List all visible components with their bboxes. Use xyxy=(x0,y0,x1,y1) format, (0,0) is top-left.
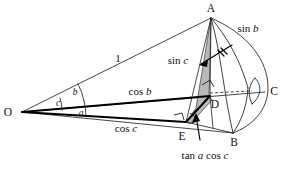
tan-cos-mid: cos xyxy=(203,149,223,161)
angle-label-a: a xyxy=(79,108,84,118)
vertex-label-E: E xyxy=(178,130,185,142)
cos-b-prefix: cos xyxy=(129,85,146,97)
cos-b-italic: b xyxy=(146,85,152,97)
vertex-label-B: B xyxy=(230,136,238,148)
vertex-label-D: D xyxy=(211,98,219,110)
spherical-trigonometry-figure: O A B C D E b c a 1 sin c sin b cos b co… xyxy=(0,0,291,169)
cos-c-italic: c xyxy=(132,122,137,134)
arc-C-lens-left xyxy=(249,78,255,104)
vertex-label-C: C xyxy=(270,85,278,97)
angle-arc-a xyxy=(84,101,86,116)
diagram-canvas: O A B C D E b c a 1 sin c sin b cos b co… xyxy=(0,0,291,169)
edge-label-tan-a-cos-c: tan a cos c xyxy=(182,149,229,161)
angle-label-b: b xyxy=(73,87,78,97)
vertex-label-O: O xyxy=(4,106,12,118)
sin-b-prefix: sin xyxy=(237,22,253,34)
dashed-line-D-to-C xyxy=(210,91,252,93)
sin-c-italic: c xyxy=(183,54,188,66)
arc-A-outer-limb xyxy=(211,18,268,133)
vertex-label-A: A xyxy=(207,2,216,14)
angle-arc-b xyxy=(78,84,84,101)
right-angle-marker-E-left xyxy=(174,113,184,120)
cos-c-prefix: cos xyxy=(115,122,132,134)
sin-b-italic: b xyxy=(253,22,259,34)
sin-c-prefix: sin xyxy=(168,54,184,66)
arc-C-lens-right xyxy=(252,78,260,104)
edge-label-sin-c: sin c xyxy=(168,54,189,66)
arc-A-to-B xyxy=(211,18,233,133)
edge-label-sin-b: sin b xyxy=(237,22,259,34)
tan-c-italic: c xyxy=(223,149,228,161)
line-E-to-B xyxy=(186,122,233,133)
edge-label-cos-c: cos c xyxy=(115,122,137,134)
tan-prefix: tan xyxy=(182,149,198,161)
edge-label-cos-b: cos b xyxy=(129,85,152,97)
edge-label-unit: 1 xyxy=(115,52,121,64)
